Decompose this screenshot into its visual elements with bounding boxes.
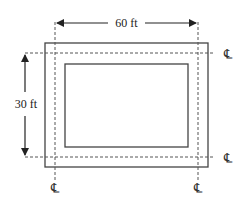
- outer-rectangle: [45, 43, 208, 167]
- centerline-symbol-bottom-right: ℄: [223, 150, 233, 165]
- centerline-symbol-left-bottom: ℄: [50, 180, 60, 195]
- inner-rectangle: [65, 64, 188, 147]
- height-dimension-label: 30 ft: [15, 97, 38, 111]
- diagram-canvas: 60 ft 30 ft ℄ ℄ ℄ ℄: [0, 0, 243, 205]
- width-dimension-label: 60 ft: [115, 16, 138, 30]
- centerline-symbol-top-right: ℄: [223, 46, 233, 61]
- centerline-symbol-right-bottom: ℄: [193, 180, 203, 195]
